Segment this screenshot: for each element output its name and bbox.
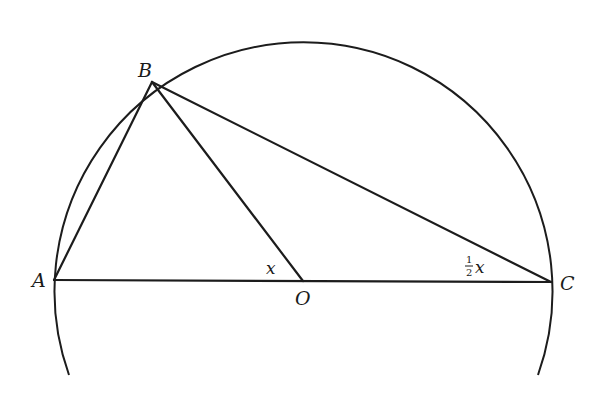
segment-ab	[54, 82, 152, 280]
fraction-numerator: 1	[466, 254, 472, 265]
point-label-o: O	[295, 287, 311, 309]
point-label-c: C	[560, 272, 575, 294]
segment-bo-radius	[152, 82, 303, 281]
fraction-denominator: 2	[466, 267, 472, 278]
point-label-b: B	[137, 59, 152, 81]
circle-geometry-diagram: B A O C x 1 2 x	[0, 0, 606, 397]
angle-label-half-x: 1 2 x	[465, 254, 485, 278]
segment-bc	[152, 82, 551, 282]
point-label-a: A	[30, 269, 46, 291]
circle-arc	[54, 42, 552, 375]
angle-label-x: x	[266, 258, 276, 278]
fraction-variable: x	[475, 257, 485, 277]
